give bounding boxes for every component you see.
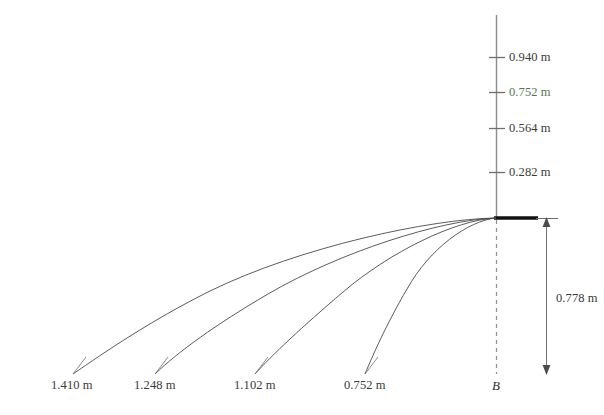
axis-tick-label-0564: 0.564 m	[509, 121, 551, 136]
trajectory-curve-1248	[155, 218, 496, 374]
trajectory-curves	[73, 218, 496, 374]
axis-tick-label-0940: 0.940 m	[509, 50, 551, 65]
drop-height-label: 0.778 m	[556, 291, 598, 306]
axis-tick-label-0282: 0.282 m	[509, 165, 551, 180]
label-leader-lines	[73, 357, 378, 374]
axis-tick-label-0752: 0.752 m	[509, 85, 551, 100]
leader-line-1410	[73, 357, 86, 374]
leader-line-1102	[255, 357, 268, 374]
trajectory-curve-1410	[73, 218, 496, 374]
trajectory-curve-0752	[365, 218, 496, 374]
leader-line-1248	[155, 357, 168, 374]
ground-range-label-1102: 1.102 m	[234, 378, 276, 393]
ground-range-label-1410: 1.410 m	[51, 378, 93, 393]
diagram-canvas: 0.940 m 0.752 m 0.564 m 0.282 m 1.410 m …	[0, 0, 604, 415]
ground-range-label-1248: 1.248 m	[134, 378, 176, 393]
point-label-b: B	[492, 378, 500, 394]
drop-height-dimension	[536, 217, 558, 375]
ground-range-label-0752: 0.752 m	[344, 378, 386, 393]
